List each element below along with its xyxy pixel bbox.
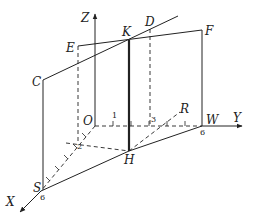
label-r: R — [179, 102, 189, 116]
label-w: W — [206, 113, 220, 127]
label-d: D — [144, 15, 155, 29]
tick-label-y3: 3 — [151, 115, 156, 124]
label-y: Y — [233, 111, 242, 125]
label-o: O — [83, 114, 93, 128]
line-c-k-d — [43, 16, 178, 80]
tick-label-y1: 1 — [112, 111, 117, 120]
tick-label-y6: 6 — [200, 128, 205, 137]
label-x: X — [5, 195, 15, 209]
label-e: E — [65, 41, 75, 55]
diagram-canvas: Z Y X K D E F C O R W H S 1 3 6 2 6 — [0, 0, 258, 216]
label-f: F — [204, 24, 214, 38]
label-z: Z — [80, 11, 90, 25]
tick-label-x2: 2 — [77, 142, 82, 151]
trace-s-h-w — [41, 126, 202, 191]
label-k: K — [121, 25, 132, 39]
label-h: H — [123, 153, 135, 167]
edge-e-f — [78, 30, 202, 46]
tick-label-x6: 6 — [40, 193, 45, 202]
label-c: C — [32, 75, 41, 89]
y-axis-ticks — [113, 121, 185, 126]
